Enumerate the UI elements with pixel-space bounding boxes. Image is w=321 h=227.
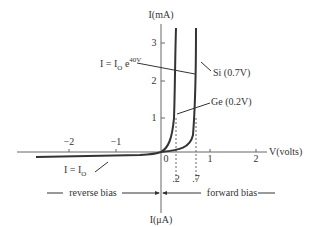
si-label: Si (0.7V) [213, 67, 250, 79]
x-axis-label: V(volts) [269, 146, 302, 158]
y-tick-label: 3 [152, 37, 157, 48]
reverse-bias-arrowhead [155, 191, 160, 195]
saturation-label: I = IO [64, 164, 86, 178]
si-threshold-label: .7 [192, 173, 200, 184]
diagram-canvas: −2 −1 0 1 2 1 2 3 I(mA) I(μA) V(volts) .… [0, 0, 321, 227]
diode-iv-diagram: −2 −1 0 1 2 1 2 3 I(mA) I(μA) V(volts) .… [0, 0, 321, 227]
y-axis-label-top: I(mA) [149, 9, 174, 21]
x-tick-label: 0 [164, 153, 169, 164]
ge-label: Ge (0.2V) [211, 96, 252, 108]
x-tick-label: 2 [254, 153, 259, 164]
reverse-bias-label: reverse bias [69, 187, 117, 198]
reverse-saturation-curve [36, 152, 161, 157]
equation-label: I = IO e40V [100, 56, 141, 72]
x-tick-label: −2 [64, 136, 75, 147]
y-ticks [161, 43, 165, 118]
equation-leader-line [137, 63, 195, 74]
y-axis-label-bottom: I(μA) [150, 214, 173, 226]
y-tick-label: 2 [152, 75, 157, 86]
x-tick-label: −1 [111, 136, 122, 147]
si-leader-line [201, 62, 211, 71]
y-tick-label: 1 [152, 112, 157, 123]
forward-bias-label: forward bias [207, 187, 257, 198]
si-curve [161, 28, 196, 152]
ge-curve [161, 28, 176, 152]
x-tick-label: 1 [208, 153, 213, 164]
saturation-leader-line [95, 162, 108, 172]
ge-threshold-label: .2 [172, 173, 180, 184]
